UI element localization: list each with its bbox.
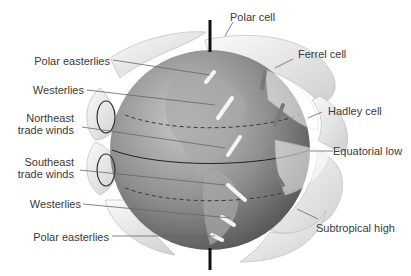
label-text: trade winds xyxy=(18,168,74,180)
label-ferrel-cell: Ferrel cell xyxy=(298,48,346,60)
label-text: Polar easterlies xyxy=(34,55,110,67)
label-text: trade winds xyxy=(18,124,74,136)
label-northeast-trade-winds: Northeast trade winds xyxy=(18,112,74,136)
label-text: Polar cell xyxy=(230,11,275,23)
label-polar-cell: Polar cell xyxy=(230,11,275,23)
label-text: Westerlies xyxy=(30,198,81,210)
label-westerlies-south: Westerlies xyxy=(30,198,81,210)
label-polar-easterlies-south: Polar easterlies xyxy=(33,231,109,243)
label-southeast-trade-winds: Southeast trade winds xyxy=(18,156,74,180)
label-equatorial-low: Equatorial low xyxy=(333,145,402,157)
label-text: Polar easterlies xyxy=(33,231,109,243)
label-text: Hadley cell xyxy=(328,105,382,117)
label-subtropical-high: Subtropical high xyxy=(316,222,395,234)
label-text: Southeast xyxy=(18,156,74,168)
label-text: Westerlies xyxy=(33,84,84,96)
label-text: Subtropical high xyxy=(316,222,395,234)
label-westerlies-north: Westerlies xyxy=(33,84,84,96)
atmospheric-circulation-diagram: Polar easterlies Westerlies Northeast tr… xyxy=(0,0,411,276)
label-polar-easterlies-north: Polar easterlies xyxy=(34,55,110,67)
label-text: Equatorial low xyxy=(333,145,402,157)
label-hadley-cell: Hadley cell xyxy=(328,105,382,117)
label-text: Ferrel cell xyxy=(298,48,346,60)
label-text: Northeast xyxy=(18,112,74,124)
